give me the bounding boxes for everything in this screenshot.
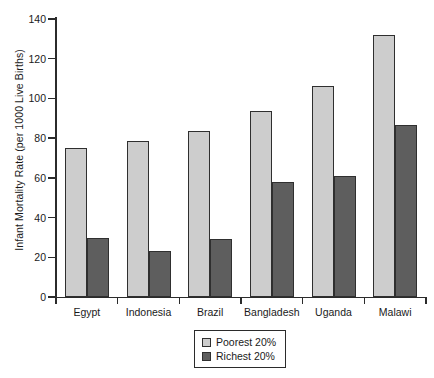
x-axis-label-bangladesh: Bangladesh <box>244 306 299 319</box>
legend-item: Richest 20% <box>202 349 276 363</box>
y-axis-tick <box>48 137 56 138</box>
legend-swatch-richest-icon <box>202 352 211 361</box>
y-axis-tick-label: 120 <box>0 53 46 64</box>
y-axis-tick-label: 20 <box>0 252 46 263</box>
x-axis-label-egypt: Egypt <box>73 306 100 319</box>
y-axis-tick <box>48 217 56 218</box>
bar-uganda-richest <box>334 176 356 297</box>
x-axis-tick <box>55 297 56 304</box>
bar-bangladesh-poorest <box>250 111 272 297</box>
x-axis-tick <box>117 297 118 304</box>
x-axis-tick <box>179 297 180 304</box>
bar-indonesia-poorest <box>127 141 149 297</box>
y-axis-tick-label: 0 <box>0 292 46 303</box>
y-axis-tick-label: 60 <box>0 172 46 183</box>
legend: Poorest 20% Richest 20% <box>194 330 286 368</box>
x-axis-tick <box>240 297 241 304</box>
legend-label-richest: Richest 20% <box>216 350 275 363</box>
bar-egypt-poorest <box>65 148 87 297</box>
x-axis-label-uganda: Uganda <box>315 306 352 319</box>
y-axis-tick-label: 100 <box>0 93 46 104</box>
plot-area <box>56 19 426 297</box>
y-axis-tick <box>48 58 56 59</box>
y-axis-tick <box>48 177 56 178</box>
bar-malawi-richest <box>395 125 417 297</box>
bar-egypt-richest <box>87 238 109 297</box>
y-axis-tick-label: 140 <box>0 14 46 25</box>
bar-brazil-poorest <box>188 131 210 297</box>
x-axis-tick <box>302 297 303 304</box>
bar-chart: Infant Mortality Rate (per 1000 Live Bir… <box>0 0 434 378</box>
bar-uganda-poorest <box>312 86 334 297</box>
legend-swatch-poorest-icon <box>202 338 211 347</box>
x-axis-label-indonesia: Indonesia <box>126 306 172 319</box>
x-axis-tick <box>425 297 426 304</box>
legend-label-poorest: Poorest 20% <box>216 336 276 349</box>
bar-indonesia-richest <box>149 251 171 297</box>
x-axis-tick <box>364 297 365 304</box>
bar-brazil-richest <box>210 239 232 297</box>
y-axis-tick <box>48 257 56 258</box>
y-axis-tick-label: 40 <box>0 212 46 223</box>
bar-malawi-poorest <box>373 35 395 297</box>
x-axis-label-malawi: Malawi <box>379 306 412 319</box>
legend-item: Poorest 20% <box>202 335 276 349</box>
y-axis-tick <box>48 98 56 99</box>
bar-bangladesh-richest <box>272 182 294 297</box>
x-axis-label-brazil: Brazil <box>197 306 223 319</box>
y-axis-tick-label: 80 <box>0 133 46 144</box>
y-axis-tick <box>48 18 56 19</box>
